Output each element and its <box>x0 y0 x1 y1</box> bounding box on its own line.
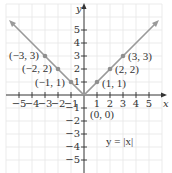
svg-text:3: 3 <box>120 98 126 109</box>
label-2: (2, 2) <box>115 63 139 76</box>
abs-value-graph: −5 −4 −3 −2 −1 1 2 3 4 5 5 4 3 2 1 −1 −2… <box>0 0 172 173</box>
svg-text:−1: −1 <box>65 102 80 113</box>
svg-text:3: 3 <box>74 50 80 61</box>
svg-text:−3: −3 <box>65 128 80 139</box>
svg-text:5: 5 <box>74 24 80 35</box>
y-axis-label: y <box>75 3 82 14</box>
label-m1: (−1, 1) <box>35 76 65 89</box>
point-3 <box>121 54 126 59</box>
svg-text:2: 2 <box>74 63 80 74</box>
x-axis-label: x <box>163 98 169 109</box>
x-axis-arrow-icon <box>161 93 167 98</box>
svg-text:−4: −4 <box>65 141 80 152</box>
svg-text:5: 5 <box>146 98 152 109</box>
label-m3: (−3, 3) <box>9 49 39 62</box>
svg-text:−2: −2 <box>65 115 80 126</box>
label-1: (1, 1) <box>102 77 126 90</box>
point-1 <box>95 80 100 85</box>
point-m3 <box>43 54 48 59</box>
origin-label: (0, 0) <box>90 108 114 121</box>
svg-text:4: 4 <box>74 37 80 48</box>
x-tick-labels: −5 −4 −3 −2 −1 1 2 3 4 5 <box>12 98 153 109</box>
label-m2: (−2, 2) <box>22 62 52 75</box>
point-2 <box>108 67 113 72</box>
svg-text:4: 4 <box>133 98 139 109</box>
point-m1 <box>69 80 74 85</box>
point-m2 <box>56 67 61 72</box>
label-3: (3, 3) <box>128 50 152 63</box>
equation-label: y = |x| <box>106 135 133 147</box>
svg-text:−5: −5 <box>65 154 80 165</box>
